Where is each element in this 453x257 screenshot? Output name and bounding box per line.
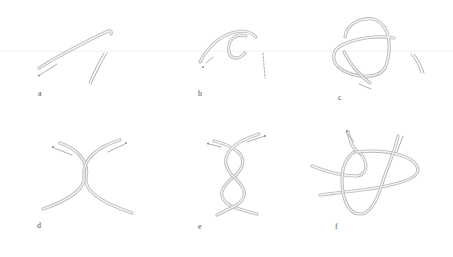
panel-label-d: d bbox=[37, 221, 41, 230]
panel-b-drawing bbox=[151, 0, 302, 128]
panel-a: a bbox=[0, 0, 151, 128]
panel-c: c bbox=[302, 0, 453, 128]
panel-c-drawing bbox=[302, 0, 453, 128]
panel-label-f: f bbox=[335, 222, 338, 231]
panel-label-a: a bbox=[38, 89, 42, 98]
knot-sequence-figure: a b c bbox=[0, 0, 453, 257]
panel-d-drawing bbox=[0, 128, 151, 257]
panel-b: b bbox=[151, 0, 302, 128]
panel-a-drawing bbox=[0, 0, 151, 128]
panel-label-b: b bbox=[198, 89, 202, 98]
panel-f: f bbox=[302, 128, 453, 256]
panel-e: e bbox=[151, 128, 302, 256]
panel-f-drawing bbox=[302, 128, 453, 257]
panel-label-e: e bbox=[198, 222, 202, 231]
panel-d: d bbox=[0, 128, 151, 256]
panel-e-drawing bbox=[151, 128, 302, 257]
panel-label-c: c bbox=[338, 93, 342, 102]
